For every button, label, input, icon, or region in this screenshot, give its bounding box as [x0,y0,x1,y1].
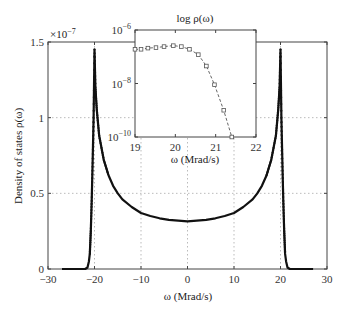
data-point [98,130,100,132]
data-point [281,170,283,172]
data-point [89,244,91,246]
data-point [102,154,104,156]
data-point [277,107,279,109]
data-point [282,181,284,183]
inset-square-marker [197,53,201,57]
data-point [89,246,91,248]
data-point [99,137,101,139]
inset-square-marker [146,46,150,50]
y-tick-label: 1.5 [30,36,44,48]
data-point [96,114,98,116]
data-point [92,144,94,146]
data-point [282,177,284,179]
data-point [283,235,285,237]
data-point [90,227,92,229]
data-point [282,173,284,175]
data-point [90,206,92,208]
data-point [89,235,91,237]
data-point [95,102,97,104]
data-point [278,100,280,102]
data-point [281,139,283,141]
data-point [94,86,96,88]
data-point [275,132,277,134]
data-point [90,221,92,223]
x-tick-label: −10 [132,273,150,285]
data-point [280,76,282,78]
inset-square-marker [172,44,176,48]
data-point [277,102,279,104]
data-point [275,130,277,132]
data-point [283,218,285,220]
data-point [93,48,95,50]
data-point [90,232,92,234]
x-tick-label: −20 [86,273,104,285]
data-point [280,62,282,64]
inset-x-tick-label: 22 [251,141,262,153]
data-point [275,127,277,129]
data-point [280,96,282,98]
inset-y-tick-label: 10−6 [111,22,131,36]
data-point [97,127,99,129]
data-point [279,79,281,81]
data-point [278,95,280,97]
data-point [91,188,93,190]
data-point [94,75,96,77]
data-point [93,103,95,105]
data-point [94,71,96,73]
data-point [95,95,97,97]
data-point [282,185,284,187]
data-point [98,132,100,134]
data-point [281,148,283,150]
main-y-label: Density of states ρ(ω) [12,108,25,204]
data-point [279,71,281,73]
inset-square-marker [230,135,234,139]
y-tick-label: 0 [39,263,45,275]
data-point [283,232,285,234]
data-point [276,122,278,124]
data-point [279,52,281,54]
data-point [99,142,101,144]
inset-x-label: ω (Mrad/s) [171,153,220,166]
data-point [272,147,274,149]
inset-square-marker [139,47,143,51]
data-point [91,181,93,183]
data-point [270,159,272,161]
data-point [281,166,283,168]
data-point [89,241,91,243]
data-point [94,89,96,91]
inset-x-tick-label: 20 [170,141,182,153]
main-x-label: ω (Mrad/s) [164,290,213,303]
data-point [283,221,285,223]
data-point [95,93,97,95]
data-point [282,192,284,194]
data-point [92,126,94,128]
data-point [282,196,284,198]
data-point [91,173,93,175]
chart-canvas: −30−20−100102030 00.511.5 ×10−7 ω (Mrad/… [0,0,352,313]
inset-frame [135,30,256,137]
data-point [91,166,93,168]
data-point [277,114,279,116]
data-point [92,139,94,141]
data-point [91,192,93,194]
y-multiplier: ×10−7 [50,27,76,40]
data-point [278,91,280,93]
data-point [279,60,281,62]
data-point [91,185,93,187]
inset-square-marker [205,64,209,68]
data-point [92,130,94,132]
data-point [91,196,93,198]
inset-square-marker [162,45,166,49]
data-point [90,230,92,232]
data-point [89,239,91,241]
data-point [277,109,279,111]
data-point [89,237,91,239]
data-point [96,112,98,114]
data-point [283,230,285,232]
data-point [283,215,285,217]
data-point [89,253,91,255]
data-point [89,248,91,250]
data-point [94,60,96,62]
data-point [93,52,95,54]
data-point [90,218,92,220]
